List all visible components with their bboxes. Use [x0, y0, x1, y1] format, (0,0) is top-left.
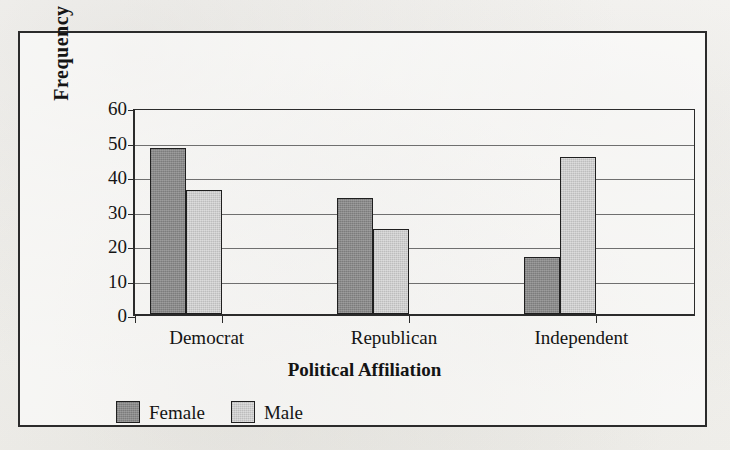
y-axis-tick	[128, 179, 135, 180]
legend-label-female: Female	[149, 403, 205, 422]
plot-area	[133, 109, 695, 316]
legend-item-female[interactable]: Female	[116, 401, 205, 423]
x-axis-category-label-independent: Independent	[481, 327, 681, 349]
y-axis-tick-label: 40	[81, 168, 127, 187]
chart-page: Frequency 6050403020100 Political Affili…	[0, 0, 730, 450]
y-axis-tick-label: 30	[81, 203, 127, 222]
x-axis-tick	[596, 314, 597, 323]
y-axis-tick-label: 20	[81, 237, 127, 256]
legend-swatch-female	[116, 401, 140, 423]
gridline	[135, 179, 694, 180]
x-axis-tick	[409, 314, 410, 323]
y-axis-tick-label: 50	[81, 134, 127, 153]
y-axis-tick	[128, 145, 135, 146]
y-axis-tick	[128, 317, 135, 318]
gridline	[135, 145, 694, 146]
bar-republican-female[interactable]	[337, 198, 373, 314]
x-axis-tick	[222, 314, 223, 323]
y-axis-tick	[128, 283, 135, 284]
x-axis-tick-origin	[135, 314, 136, 323]
y-axis-tick-label: 0	[81, 306, 127, 325]
legend-swatch-male	[231, 401, 255, 423]
x-axis-category-label-democrat: Democrat	[107, 327, 307, 349]
chart-legend: FemaleMale	[116, 401, 303, 423]
bar-republican-male[interactable]	[373, 229, 409, 314]
y-axis-tick	[128, 248, 135, 249]
bar-independent-male[interactable]	[560, 157, 596, 314]
legend-label-male: Male	[264, 403, 303, 422]
y-axis-tick-label: 10	[81, 272, 127, 291]
bar-democrat-female[interactable]	[150, 148, 186, 314]
y-axis-title: Frequency	[50, 0, 73, 138]
chart-frame: Frequency 6050403020100 Political Affili…	[18, 31, 707, 427]
y-axis-tick	[128, 214, 135, 215]
x-axis-title: Political Affiliation	[20, 359, 709, 381]
bar-independent-female[interactable]	[524, 257, 560, 314]
x-axis-category-label-republican: Republican	[294, 327, 494, 349]
legend-item-male[interactable]: Male	[231, 401, 303, 423]
y-axis-tick	[128, 110, 135, 111]
y-axis-tick-label: 60	[81, 99, 127, 118]
bar-democrat-male[interactable]	[186, 190, 222, 314]
